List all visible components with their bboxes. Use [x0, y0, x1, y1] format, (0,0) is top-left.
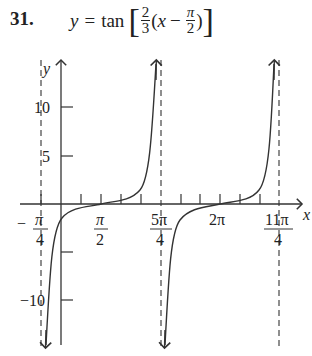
svg-text:4: 4 — [36, 231, 44, 248]
svg-text:4: 4 — [156, 231, 164, 248]
svg-text:11π: 11π — [265, 211, 288, 228]
x-tick-5pi-over-4: 5π 4 — [150, 211, 172, 248]
x-tick-neg-pi-over-4: − π 4 — [17, 211, 48, 248]
svg-text:2: 2 — [96, 231, 104, 248]
svg-text:π: π — [96, 211, 105, 228]
y-tick-5: 5 — [42, 148, 50, 165]
y-tick-10: 10 — [34, 99, 50, 116]
svg-text:−: − — [17, 215, 26, 232]
x-tick-11pi-over-4: 11π 4 — [264, 211, 293, 248]
x-tick-pi-over-2: π 2 — [94, 211, 108, 248]
tangent-graph: x y 10 5 −10 − π 4 π 2 5π 4 2π 11π 4 — [0, 0, 312, 356]
svg-text:π: π — [35, 211, 44, 228]
x-tick-2pi: 2π — [209, 211, 225, 228]
svg-text:5π: 5π — [151, 211, 167, 228]
svg-text:4: 4 — [274, 231, 282, 248]
y-tick-neg-10: −10 — [20, 292, 45, 309]
x-axis-label: x — [302, 206, 310, 223]
y-axis-label: y — [41, 60, 51, 78]
